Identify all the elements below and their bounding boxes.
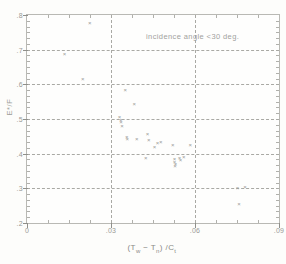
data-point-marker (62, 51, 68, 57)
x-axis-minor-tick (237, 15, 238, 18)
x-axis-minor-tick (69, 220, 70, 223)
y-axis-minor-tick (276, 90, 279, 91)
gridline-vertical (111, 15, 112, 223)
y-axis-minor-tick (276, 107, 279, 108)
data-point-marker (236, 201, 242, 207)
data-point-marker (87, 20, 93, 26)
x-axis-minor-tick (48, 220, 49, 223)
x-axis-minor-tick (174, 15, 175, 18)
data-point-marker (80, 76, 86, 82)
y-axis-minor-tick (27, 67, 30, 68)
y-axis-minor-tick (27, 32, 30, 33)
data-point-marker (172, 163, 178, 169)
scatter-plot-figure: E*/F 0.03.06.09.2.3.4.5.6.7.8 incidence … (0, 0, 286, 264)
y-axis-minor-tick (276, 165, 279, 166)
x-axis-tick-label: 0 (25, 227, 29, 234)
x-axis-title: (Tw − Tn) /Ct (128, 243, 177, 254)
y-axis-minor-tick (276, 194, 279, 195)
y-axis-minor-tick (27, 96, 30, 97)
data-point-marker (122, 87, 128, 93)
data-point-marker (146, 137, 152, 143)
y-axis-minor-tick (27, 165, 30, 166)
y-axis-minor-tick (27, 200, 30, 201)
x-axis-minor-tick (69, 15, 70, 18)
y-axis-minor-tick (276, 21, 279, 22)
y-axis-minor-tick (276, 217, 279, 218)
y-axis-tick-label: .5 (17, 116, 23, 123)
y-axis-major-tick (23, 188, 28, 189)
y-axis-minor-tick (27, 44, 30, 45)
data-point-marker (131, 101, 137, 107)
data-point-marker (134, 136, 140, 142)
y-axis-minor-tick (27, 27, 30, 28)
y-axis-minor-tick (27, 142, 30, 143)
y-axis-tick-label: .7 (17, 46, 23, 53)
y-axis-minor-tick (276, 32, 279, 33)
y-axis-tick-label: .4 (17, 150, 23, 157)
x-axis-minor-tick (132, 220, 133, 223)
y-axis-minor-tick (276, 211, 279, 212)
y-axis-minor-tick (276, 131, 279, 132)
y-axis-minor-tick (27, 61, 30, 62)
chart-annotation: incidence angle <30 deg. (146, 32, 239, 41)
y-axis-minor-tick (276, 44, 279, 45)
y-axis-minor-tick (276, 171, 279, 172)
gridline-vertical (195, 15, 196, 223)
y-axis-minor-tick (276, 183, 279, 184)
y-axis-minor-tick (276, 73, 279, 74)
x-axis-minor-tick (216, 15, 217, 18)
y-axis-minor-tick (276, 96, 279, 97)
y-axis-minor-tick (276, 148, 279, 149)
data-point-marker (242, 184, 248, 190)
gridline-horizontal (27, 119, 279, 120)
y-axis-minor-tick (27, 107, 30, 108)
y-axis-minor-tick (27, 177, 30, 178)
x-axis-minor-tick (258, 220, 259, 223)
data-point-marker (235, 185, 241, 191)
x-axis-minor-tick (153, 15, 154, 18)
data-point-marker (170, 142, 176, 148)
y-axis-tick-label: .8 (17, 12, 23, 19)
x-axis-minor-tick (90, 15, 91, 18)
y-axis-minor-tick (27, 148, 30, 149)
x-axis-minor-tick (258, 15, 259, 18)
y-axis-minor-tick (276, 27, 279, 28)
y-axis-minor-tick (27, 194, 30, 195)
x-axis-minor-tick (90, 220, 91, 223)
y-axis-tick-label: .6 (17, 81, 23, 88)
y-axis-major-tick (23, 154, 28, 155)
plot-area: 0.03.06.09.2.3.4.5.6.7.8 incidence angle… (26, 14, 280, 224)
y-axis-minor-tick (27, 55, 30, 56)
y-axis-minor-tick (27, 38, 30, 39)
y-axis-minor-tick (276, 142, 279, 143)
y-axis-minor-tick (276, 102, 279, 103)
y-axis-minor-tick (27, 136, 30, 137)
data-point-marker (187, 142, 193, 148)
x-axis-minor-tick (48, 15, 49, 18)
x-axis-minor-tick (132, 15, 133, 18)
y-axis-minor-tick (27, 206, 30, 207)
x-axis-tick-label: .09 (274, 227, 285, 234)
y-axis-minor-tick (276, 206, 279, 207)
y-axis-minor-tick (27, 171, 30, 172)
y-axis-minor-tick (27, 131, 30, 132)
y-axis-minor-tick (276, 67, 279, 68)
y-axis-tick-label: .2 (17, 220, 23, 227)
y-axis-minor-tick (276, 55, 279, 56)
gridline-horizontal (27, 84, 279, 85)
data-point-marker (119, 123, 125, 129)
y-axis-minor-tick (27, 159, 30, 160)
x-axis-minor-tick (153, 220, 154, 223)
x-axis-minor-tick (216, 220, 217, 223)
data-point-marker (158, 139, 164, 145)
y-axis-minor-tick (276, 61, 279, 62)
y-axis-major-tick (23, 119, 28, 120)
x-axis-tick-label: .06 (190, 227, 201, 234)
y-axis-minor-tick (276, 79, 279, 80)
y-axis-minor-tick (276, 200, 279, 201)
y-axis-minor-tick (27, 90, 30, 91)
x-axis-minor-tick (174, 220, 175, 223)
y-axis-minor-tick (27, 21, 30, 22)
y-axis-major-tick (23, 223, 28, 224)
y-axis-title: E*/F (5, 99, 14, 116)
